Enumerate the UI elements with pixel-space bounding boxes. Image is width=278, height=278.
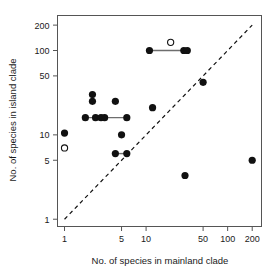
data-point (61, 129, 68, 136)
data-point (123, 114, 130, 121)
data-point-open (168, 39, 174, 45)
data-point (249, 157, 256, 164)
data-point (181, 172, 188, 179)
data-point (200, 79, 207, 86)
chart-figure: No. of species in mainland clade No. of … (0, 0, 278, 278)
x-axis-label: No. of species in mainland clade (92, 255, 229, 266)
y-tick-label: 5 (44, 156, 49, 166)
data-point (184, 47, 191, 54)
data-point (89, 91, 96, 98)
x-tick-label: 10 (141, 234, 151, 244)
y-tick-label: 1 (44, 215, 49, 225)
x-tick-label: 50 (198, 234, 208, 244)
y-tick-label: 200 (34, 21, 49, 31)
data-point (101, 114, 108, 121)
x-tick-label: 5 (119, 234, 124, 244)
x-tick-label: 200 (245, 234, 260, 244)
x-tick-label: 100 (220, 234, 235, 244)
data-point (146, 47, 153, 54)
data-point (112, 150, 119, 157)
data-point (118, 131, 125, 138)
scatter-plot: No. of species in mainland clade No. of … (0, 0, 278, 278)
y-tick-label: 50 (39, 71, 49, 81)
y-axis-label: No. of species in island clade (7, 58, 18, 181)
data-point (149, 104, 156, 111)
y-tick-label: 10 (39, 130, 49, 140)
data-point (112, 98, 119, 105)
data-point (123, 150, 130, 157)
data-point (89, 98, 96, 105)
data-point (82, 114, 89, 121)
data-point-open (61, 145, 67, 151)
y-tick-label: 100 (34, 46, 49, 56)
x-tick-label: 1 (62, 234, 67, 244)
